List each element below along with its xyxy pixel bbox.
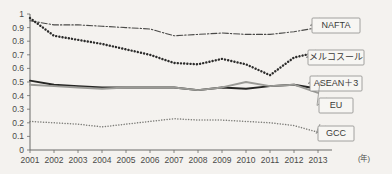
y-axis-tick-label: 0.5 xyxy=(12,77,24,87)
legend-label: NAFTA xyxy=(322,20,351,30)
x-axis-tick-label: 2008 xyxy=(189,155,208,165)
y-axis-tick-label: 0.9 xyxy=(12,23,24,33)
x-axis-tick-label: 2013 xyxy=(309,155,328,165)
y-axis-tick-label: 0.1 xyxy=(12,131,24,141)
x-axis-tick-label: 2006 xyxy=(141,155,160,165)
y-axis-tick-label: 0.2 xyxy=(12,118,24,128)
legend-label: メルコスール xyxy=(309,52,363,62)
x-axis-tick-label: 2009 xyxy=(213,155,232,165)
y-axis-tick-label: 0.7 xyxy=(12,50,24,60)
x-axis-tick-label: 2001 xyxy=(21,155,40,165)
x-axis-tick-label: 2002 xyxy=(45,155,64,165)
y-axis-tick-label: 0 xyxy=(19,145,24,155)
y-axis-tick-label: 0.4 xyxy=(12,91,24,101)
legend-label: ASEAN＋3 xyxy=(314,78,359,88)
line-chart: 00.10.20.30.40.50.60.70.80.91 2001200220… xyxy=(0,0,392,174)
y-axis-tick-label: 0.3 xyxy=(12,104,24,114)
x-axis-tick-label: 2011 xyxy=(261,155,280,165)
x-axis-tick-label: 2012 xyxy=(285,155,304,165)
x-axis-tick-label: 2005 xyxy=(117,155,136,165)
y-axis-tick-label: 1 xyxy=(19,9,24,19)
chart-container: 00.10.20.30.40.50.60.70.80.91 2001200220… xyxy=(0,0,392,174)
x-axis-tick-label: 2003 xyxy=(69,155,88,165)
y-axis-tick-label: 0.6 xyxy=(12,63,24,73)
legend-label: GCC xyxy=(326,128,347,138)
x-axis-tick-label: 2004 xyxy=(93,155,112,165)
legend-label: EU xyxy=(330,100,343,110)
x-axis-tick-label: 2010 xyxy=(237,155,256,165)
x-axis-tick-label: 2007 xyxy=(165,155,184,165)
x-axis-unit-label: (年) xyxy=(358,153,370,163)
y-axis-tick-label: 0.8 xyxy=(12,36,24,46)
